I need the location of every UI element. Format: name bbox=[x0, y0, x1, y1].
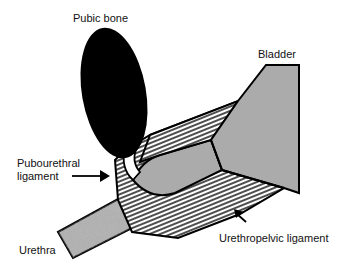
bladder-label: Bladder bbox=[258, 48, 296, 60]
pubourethral-label-line1: Pubourethral bbox=[17, 157, 80, 169]
diagram-canvas bbox=[0, 0, 354, 268]
pubic-bone-label: Pubic bone bbox=[73, 12, 128, 24]
urethra-label: Urethra bbox=[19, 244, 56, 256]
anatomy-diagram: Pubic bone Bladder Pubourethral ligament… bbox=[0, 0, 354, 268]
urethropelvic-label: Urethropelvic ligament bbox=[219, 232, 328, 244]
pubourethral-arrow-icon bbox=[72, 170, 110, 182]
pubourethral-label-line2: ligament bbox=[17, 170, 59, 182]
